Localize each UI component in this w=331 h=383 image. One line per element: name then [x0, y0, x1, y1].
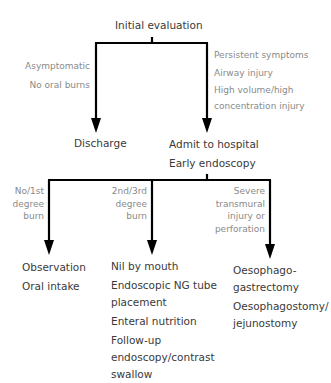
outcome-gastrectomy: gastrectomy [233, 279, 328, 296]
outcome-nil-by-mouth: Nil by mouth [111, 258, 217, 275]
outcome-follow-up: Follow-up [111, 332, 217, 349]
arrowhead-observation [44, 240, 54, 255]
outcome-admit-to-hospital: Admit to hospital [169, 135, 259, 154]
condition-line: degree [12, 198, 44, 211]
outcome-oesophago: Oesophago- [233, 262, 328, 279]
outcome-placement: placement [111, 294, 217, 311]
condition-airway-injury: Airway injury [214, 64, 308, 82]
condition-persistent-symptoms: Persistent symptoms [214, 46, 308, 64]
condition-line: No/1st [12, 185, 44, 198]
node-oesophagogastrectomy: Oesophago- gastrectomy Oesophagostomy/ j… [233, 262, 328, 332]
condition-line: Severe [215, 185, 265, 198]
node-admit-to-hospital: Admit to hospital Early endoscopy [169, 135, 259, 173]
arrowhead-admit [202, 118, 212, 133]
outcome-early-endoscopy: Early endoscopy [169, 154, 259, 173]
node-observation: Observation Oral intake [22, 258, 86, 296]
arrowhead-surgery [265, 244, 275, 259]
label-2nd-3rd-degree-burn: 2nd/3rd degree burn [112, 185, 147, 223]
node-nil-by-mouth: Nil by mouth Endoscopic NG tube placemen… [111, 258, 217, 383]
condition-high-volume: High volume/high [214, 82, 308, 98]
label-severe-transmural-injury: Severe transmural injury or perforation [215, 185, 265, 235]
node-initial-evaluation: Initial evaluation [115, 17, 203, 34]
outcome-oral-intake: Oral intake [22, 277, 86, 296]
outcome-endoscopy-contrast: endoscopy/contrast [111, 349, 217, 366]
condition-line: burn [112, 210, 147, 223]
outcome-observation: Observation [22, 258, 86, 277]
label-discharge-conditions: Asymptomatic No oral burns [25, 57, 90, 95]
arrowhead-nil-by-mouth [147, 240, 157, 255]
condition-line: injury or [215, 210, 265, 223]
arrowhead-discharge [91, 118, 101, 133]
condition-asymptomatic: Asymptomatic [25, 57, 90, 76]
outcome-enteral-nutrition: Enteral nutrition [111, 313, 217, 330]
condition-concentration-injury: concentration injury [214, 98, 308, 114]
condition-line: burn [12, 210, 44, 223]
outcome-swallow: swallow [111, 366, 217, 383]
outcome-jejunostomy: jejunostomy [233, 315, 328, 332]
condition-line: perforation [215, 223, 265, 236]
condition-line: degree [112, 198, 147, 211]
label-no-1st-degree-burn: No/1st degree burn [12, 185, 44, 223]
node-discharge: Discharge [74, 135, 127, 152]
outcome-oesophagostomy: Oesophagostomy/ [233, 298, 328, 315]
condition-no-oral-burns: No oral burns [25, 76, 90, 95]
condition-line: transmural [215, 198, 265, 211]
condition-line: 2nd/3rd [112, 185, 147, 198]
outcome-endoscopic-ng-tube: Endoscopic NG tube [111, 277, 217, 294]
label-admit-conditions: Persistent symptoms Airway injury High v… [214, 46, 308, 114]
